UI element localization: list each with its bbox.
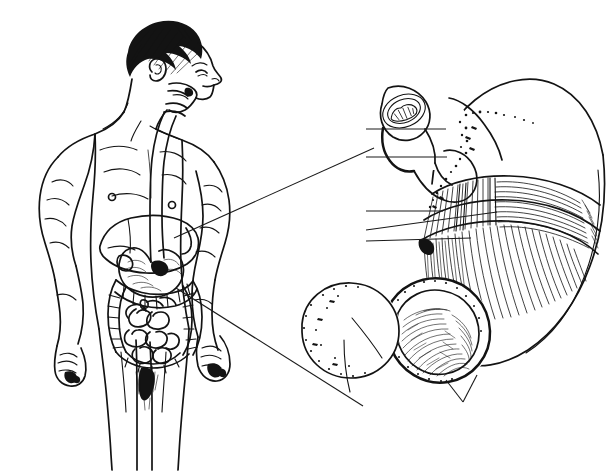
figure-canvas <box>0 0 614 473</box>
anatomical-figure: Anatomy of the stomach Human digestive t… <box>0 0 614 473</box>
